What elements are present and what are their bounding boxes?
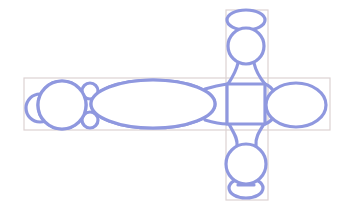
bottom-neck-left xyxy=(229,124,237,146)
shapes-group xyxy=(26,10,326,198)
top-circle xyxy=(228,28,264,64)
center-square xyxy=(227,84,265,124)
cross-diagram xyxy=(0,0,354,208)
top-neck-left xyxy=(228,63,238,84)
central-long-ellipse-front xyxy=(91,80,215,128)
top-neck-right xyxy=(254,63,265,84)
right-ellipse xyxy=(266,83,326,127)
bottom-circle xyxy=(226,144,266,184)
bottom-neck-right xyxy=(256,124,264,146)
left-large-circle-front xyxy=(38,81,86,129)
ellipse-to-square-top xyxy=(205,84,227,89)
ellipse-to-square-bottom xyxy=(205,120,227,124)
